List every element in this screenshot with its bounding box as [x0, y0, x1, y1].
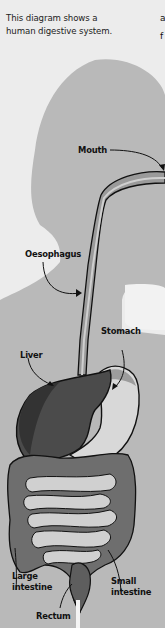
caption-line-1: This diagram shows a	[6, 12, 126, 25]
label-large-intestine-line-1: Large	[12, 571, 52, 582]
diagram-page: This diagram shows a human digestive sys…	[0, 0, 165, 628]
caption-line-2: human digestive system.	[6, 25, 126, 38]
label-small-intestine-line-2: intestine	[111, 587, 151, 598]
label-small-intestine-line-1: Small	[111, 576, 151, 587]
clipped-text-line-2: f	[160, 30, 163, 43]
label-large-intestine-line-2: intestine	[12, 582, 52, 593]
diagram-caption: This diagram shows a human digestive sys…	[6, 12, 126, 38]
clipped-text-line-1: a	[160, 12, 165, 25]
label-rectum: Rectum	[36, 611, 71, 622]
label-large-intestine: Large intestine	[12, 571, 52, 593]
digestive-system-illustration	[0, 0, 165, 628]
label-stomach: Stomach	[101, 326, 141, 337]
label-mouth: Mouth	[78, 145, 107, 156]
label-oesophagus: Oesophagus	[25, 249, 81, 260]
label-liver: Liver	[20, 350, 42, 361]
label-small-intestine: Small intestine	[111, 576, 151, 598]
